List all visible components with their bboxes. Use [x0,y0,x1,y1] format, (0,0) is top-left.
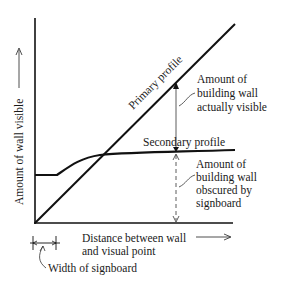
signboard-label: Width of signboard [48,262,137,275]
y-axis-label: Amount of wall visible [13,99,25,205]
obscured-annotation-3: obscured by [196,184,252,197]
secondary-profile-label: Secondary profile [143,136,225,149]
visible-annotation-3: actually visible [197,101,267,114]
obscured-annotation-1: Amount of [196,158,246,170]
diagram-canvas: Amount of wall visible Primary profile S… [0,0,285,290]
x-axis-label-1: Distance between wall [82,232,186,244]
obscured-annotation-4: signboard [196,197,242,210]
signboard-leader-head [40,246,45,251]
signboard-leader [40,246,46,268]
visible-annotation-2: building wall [197,87,258,100]
x-axis-label-2: and visual point [82,245,156,258]
obscured-leader [179,175,195,187]
obscured-annotation-2: building wall [196,171,257,184]
visible-annotation-1: Amount of [197,73,247,85]
visible-leader [179,93,195,106]
